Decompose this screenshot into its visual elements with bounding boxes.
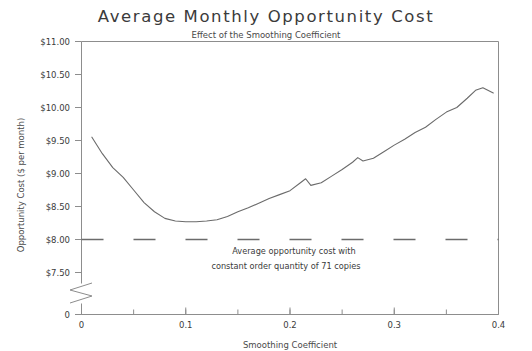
y-tick-label-9-50: $9.50 <box>46 136 70 146</box>
y-axis-break-zigzag <box>70 283 92 303</box>
reference-annotation-line-1: Average opportunity cost with <box>232 246 355 256</box>
opportunity-cost-line-chart: Average Monthly Opportunity Cost Effect … <box>0 0 532 351</box>
plot-frame <box>82 42 499 315</box>
reference-annotation-line-2: constant order quantity of 71 copies <box>211 261 360 271</box>
x-tick-label: 0.1 <box>179 320 193 330</box>
y-tick-label-10-50: $10.50 <box>40 70 70 80</box>
x-axis-tick-labels: 00.10.20.30.4 <box>79 320 505 330</box>
x-tick-label: 0.2 <box>283 320 297 330</box>
x-axis-title: Smoothing Coefficient <box>243 340 338 350</box>
y-tick-label-8-00: $8.00 <box>46 235 70 245</box>
x-tick-label: 0.3 <box>387 320 401 330</box>
x-tick-label: 0 <box>79 320 84 330</box>
y-tick-label-7-50: $7.50 <box>46 268 70 278</box>
y-tick-label-9-00: $9.00 <box>46 169 70 179</box>
y-tick-label-11-00: $11.00 <box>40 37 70 47</box>
chart-screenshot: Average Monthly Opportunity Cost Effect … <box>0 0 532 351</box>
chart-subtitle: Effect of the Smoothing Coefficient <box>192 30 342 40</box>
y-tick-label-8-50: $8.50 <box>46 202 70 212</box>
y-tick-label-zero: 0 <box>65 310 70 320</box>
y-axis-ticks <box>75 42 82 315</box>
x-axis-major-ticks <box>82 308 499 315</box>
x-tick-label: 0.4 <box>492 320 506 330</box>
y-tick-label-10-00: $10.00 <box>40 103 70 113</box>
chart-title: Average Monthly Opportunity Cost <box>98 7 434 26</box>
opportunity-cost-curve <box>92 88 493 222</box>
y-axis-title: Opportunity Cost ($ per month) <box>16 118 26 252</box>
